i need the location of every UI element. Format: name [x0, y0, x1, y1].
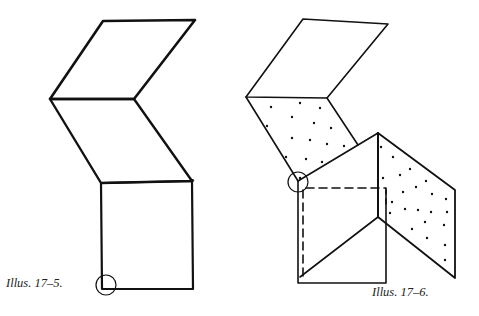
top-rhombus [50, 20, 195, 99]
figure-17-6 [246, 19, 455, 283]
hidden-edge-dashed-top [306, 188, 386, 204]
dot-pattern-upper [266, 102, 345, 179]
caption-illus-17-6: Illus. 17–6. [372, 285, 429, 300]
figure-17-5 [50, 20, 195, 295]
front-panel-bottom-edge [300, 217, 378, 277]
dotted-rhombus-right-edge [327, 98, 358, 145]
dot-pattern-right-panel [380, 146, 448, 261]
diagram-canvas [0, 0, 479, 316]
dotted-rhombus [246, 97, 298, 181]
corner-marker-circle [96, 275, 116, 295]
right-dotted-panel [378, 133, 455, 278]
top-rhombus [246, 19, 388, 98]
middle-rhombus [50, 99, 192, 183]
caption-illus-17-5: Illus. 17–5. [6, 276, 63, 291]
bottom-square [101, 181, 193, 289]
